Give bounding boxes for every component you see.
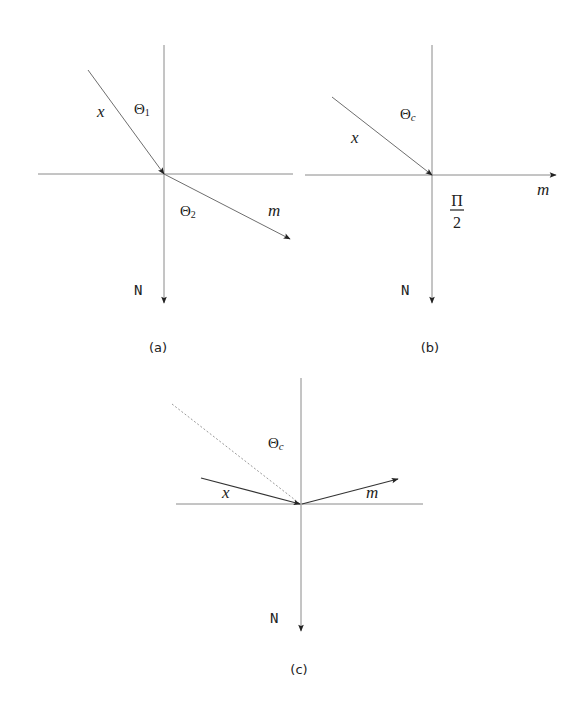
panel-b: Θc x m Π 2 N (b) bbox=[305, 45, 556, 355]
incident-ray-arrow bbox=[332, 97, 432, 175]
caption-c: (c) bbox=[290, 662, 307, 677]
incident-label: x bbox=[350, 128, 359, 147]
panel-a: x Θ1 Θ2 m N (a) bbox=[38, 45, 293, 355]
critical-angle-label: Θc bbox=[268, 435, 284, 452]
incident-ray-arrow bbox=[201, 478, 300, 504]
angle-theta2-label: Θ2 bbox=[180, 203, 196, 220]
critical-angle-dashed-ray bbox=[172, 404, 299, 503]
incident-ray-arrow bbox=[88, 70, 164, 174]
normal-label: N bbox=[134, 282, 142, 298]
fraction-numerator: Π bbox=[451, 192, 463, 209]
refraction-diagram: x Θ1 Θ2 m N (a) Θc x m Π 2 N (b) Θc x m … bbox=[0, 0, 578, 703]
angle-theta1-label: Θ1 bbox=[134, 101, 150, 118]
incident-label: x bbox=[96, 102, 105, 121]
normal-label: N bbox=[401, 282, 409, 298]
caption-a: (a) bbox=[149, 340, 167, 355]
incident-label: x bbox=[221, 483, 230, 502]
refracted-label: m bbox=[268, 201, 280, 220]
refracted-label: m bbox=[537, 180, 549, 199]
right-angle-fraction: Π 2 bbox=[450, 192, 464, 231]
normal-label: N bbox=[270, 610, 278, 626]
reflected-label: m bbox=[366, 483, 378, 502]
panel-c: Θc x m N (c) bbox=[172, 378, 423, 677]
reflected-ray-arrow bbox=[302, 479, 398, 504]
caption-b: (b) bbox=[421, 340, 439, 355]
fraction-denominator: 2 bbox=[453, 214, 461, 231]
critical-angle-label: Θc bbox=[400, 106, 416, 123]
